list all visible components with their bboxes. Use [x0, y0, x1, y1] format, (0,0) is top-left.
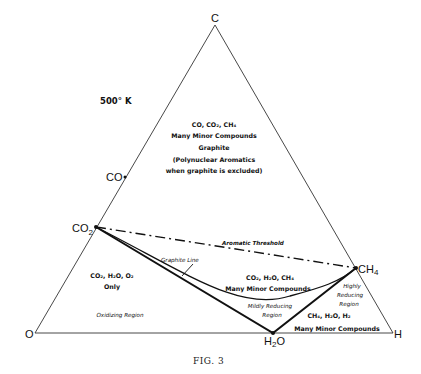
- vertex-h-label: H: [394, 328, 402, 340]
- svg-text:Only: Only: [104, 283, 120, 291]
- ternary-diagram: C O H CO CO2 CH4 H2O 500° K CO, CO₂, CH₄…: [0, 0, 421, 374]
- svg-text:CO, CO₂, CH₄: CO, CO₂, CH₄: [192, 121, 237, 128]
- aromatic-threshold-label: Aromatic Threshold: [221, 240, 285, 246]
- figure-caption: FIG. 3: [193, 356, 224, 366]
- oxidizing-region-text: CO₂, H₂O, O₂ Only Oxidizing Region: [90, 272, 144, 319]
- vertex-o-label: O: [25, 328, 34, 340]
- svg-text:CH₄, H₂O, H₂: CH₄, H₂O, H₂: [307, 312, 350, 319]
- svg-text:when graphite is excluded): when graphite is excluded): [166, 167, 263, 175]
- svg-text:Region: Region: [262, 312, 282, 319]
- highly-reducing-region-text: Highly Reducing Region: [337, 283, 364, 308]
- co-label: CO: [106, 171, 123, 183]
- co-point: [124, 176, 127, 179]
- svg-text:Mildly Reducing: Mildly Reducing: [248, 303, 293, 310]
- graphite-region-text: CO, CO₂, CH₄ Many Minor Compounds Graphi…: [166, 121, 263, 175]
- temperature-label: 500° K: [100, 96, 132, 106]
- graphite-line-label: Graphite Line: [161, 257, 199, 264]
- mildly-reducing-region-text: Mildly Reducing Region: [248, 303, 293, 319]
- h2o-label: H2O: [264, 335, 285, 349]
- vertex-c-label: C: [211, 12, 219, 24]
- svg-text:Many Minor Compounds: Many Minor Compounds: [225, 285, 311, 293]
- svg-text:Highly: Highly: [343, 283, 361, 290]
- svg-text:CO₂, H₂O, CH₄: CO₂, H₂O, CH₄: [246, 274, 294, 281]
- svg-text:CO₂, H₂O, O₂: CO₂, H₂O, O₂: [90, 272, 133, 279]
- svg-text:Many Minor Compounds: Many Minor Compounds: [171, 132, 257, 140]
- graphite-line-leader: [182, 264, 193, 276]
- bottom-right-region-text: CH₄, H₂O, H₂ Many Minor Compounds: [294, 312, 380, 333]
- svg-text:Region: Region: [339, 301, 359, 308]
- svg-text:Graphite: Graphite: [199, 144, 230, 152]
- svg-text:Oxidizing Region: Oxidizing Region: [96, 312, 144, 319]
- middle-region-text: CO₂, H₂O, CH₄ Many Minor Compounds: [225, 274, 311, 293]
- ch4-label: CH4: [358, 263, 379, 277]
- svg-text:Reducing: Reducing: [337, 292, 364, 299]
- co2-label: CO2: [72, 222, 94, 237]
- svg-text:(Polynuclear Aromatics: (Polynuclear Aromatics: [173, 156, 256, 164]
- svg-text:Many Minor Compounds: Many Minor Compounds: [294, 325, 380, 333]
- co2-point: [94, 225, 98, 229]
